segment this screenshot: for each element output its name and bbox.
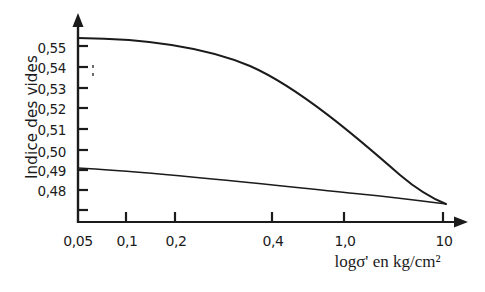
x-axis-arrowhead-icon [454, 217, 468, 228]
series-line-courbe-inferieure [78, 168, 446, 204]
y-tick-marks [78, 46, 88, 210]
series-line-courbe-superieure [78, 38, 446, 204]
x-tick-marks [126, 212, 443, 222]
chart-figure: Indice des vides logσ' en kg/cm² 0,55 0,… [0, 0, 485, 292]
chart-plot-svg [0, 0, 485, 292]
y-axis-arrowhead-icon [73, 13, 84, 27]
